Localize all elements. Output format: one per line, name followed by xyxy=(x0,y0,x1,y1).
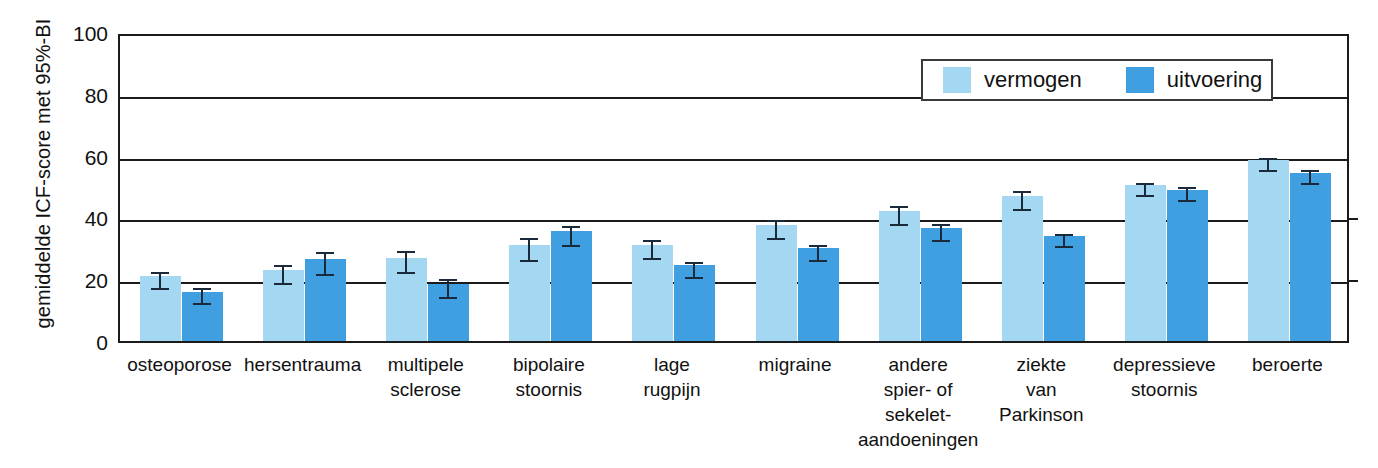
x-category-label: multipelesclerose xyxy=(364,352,487,402)
bar-vermogen-depressieve-stoornis xyxy=(1125,185,1166,341)
x-category-label: osteoporose xyxy=(118,352,241,377)
error-bar-cap xyxy=(1055,234,1073,236)
error-bar xyxy=(940,224,942,239)
error-bar-cap xyxy=(1178,187,1196,189)
error-bar xyxy=(817,245,819,260)
error-bar-cap xyxy=(274,265,292,267)
bar-vermogen-andere-spier--of-sekelet-aandoeningen xyxy=(879,211,920,341)
x-category-label: hersentrauma xyxy=(241,352,364,377)
error-bar-cap xyxy=(562,226,580,228)
error-bar xyxy=(324,252,326,274)
y-tick-label-20: 20 xyxy=(60,270,108,291)
error-bar xyxy=(528,238,530,260)
error-bar xyxy=(282,265,284,284)
x-category-label-line: rugpijn xyxy=(610,377,733,402)
error-bar xyxy=(1021,191,1023,210)
x-category-label: migraine xyxy=(734,352,857,377)
error-bar xyxy=(570,226,572,245)
bar-uitvoering-andere-spier--of-sekelet-aandoeningen xyxy=(921,228,962,341)
error-bar-cap xyxy=(1301,183,1319,185)
error-bar-cap xyxy=(1136,195,1154,197)
error-bar-cap xyxy=(520,260,538,262)
error-bar-cap xyxy=(932,224,950,226)
error-bar-cap xyxy=(643,258,661,260)
error-bar-cap xyxy=(809,260,827,262)
chart-legend: vermogenuitvoering xyxy=(921,59,1273,101)
x-category-label-line: stoornis xyxy=(1103,377,1226,402)
x-category-label-line: sekelet- xyxy=(857,402,980,427)
error-bar-cap xyxy=(1055,246,1073,248)
x-category-label-line: osteoporose xyxy=(118,352,241,377)
x-category-label-line: multipele xyxy=(364,352,487,377)
x-category-label-line: Parkinson xyxy=(980,402,1103,427)
legend-label-vermogen: vermogen xyxy=(984,67,1082,93)
right-tick-mark-20 xyxy=(1349,280,1358,282)
legend-entry-vermogen: vermogen xyxy=(943,67,1082,93)
error-bar-cap xyxy=(1178,200,1196,202)
x-category-label-line: spier- of xyxy=(857,377,980,402)
x-category-label: depressievestoornis xyxy=(1103,352,1226,402)
bar-uitvoering-depressieve-stoornis xyxy=(1167,190,1208,341)
error-bar-cap xyxy=(643,240,661,242)
x-category-label-line: van xyxy=(980,377,1103,402)
error-bar-cap xyxy=(890,224,908,226)
x-category-label-line: ziekte xyxy=(980,352,1103,377)
error-bar-cap xyxy=(685,262,703,264)
x-category-label-line: sclerose xyxy=(364,377,487,402)
error-bar-cap xyxy=(767,220,785,222)
error-bar-cap xyxy=(439,279,457,281)
error-bar xyxy=(651,240,653,259)
y-tick-label-80: 80 xyxy=(60,85,108,106)
x-category-label: lagerugpijn xyxy=(610,352,733,402)
y-axis-tick-labels: 100806040200 xyxy=(48,0,108,468)
bar-group xyxy=(386,36,469,341)
bar-group xyxy=(140,36,223,341)
bar-uitvoering-beroerte xyxy=(1290,173,1331,341)
error-bar-cap xyxy=(1136,183,1154,185)
bar-uitvoering-bipolaire-stoornis xyxy=(551,231,592,341)
x-category-label: ziektevanParkinson xyxy=(980,352,1103,427)
error-bar xyxy=(693,262,695,277)
x-category-label-line: aandoeningen xyxy=(857,427,980,452)
y-tick-label-40: 40 xyxy=(60,208,108,229)
error-bar-cap xyxy=(890,206,908,208)
y-tick-label-60: 60 xyxy=(60,147,108,168)
bar-uitvoering-ziekte-van-Parkinson xyxy=(1044,236,1085,341)
error-bar-cap xyxy=(1013,209,1031,211)
error-bar-cap xyxy=(809,245,827,247)
error-bar-cap xyxy=(316,274,334,276)
bar-group xyxy=(263,36,346,341)
error-bar xyxy=(775,220,777,239)
x-category-label: bipolairestoornis xyxy=(487,352,610,402)
bar-group xyxy=(632,36,715,341)
error-bar-cap xyxy=(685,277,703,279)
error-bar-cap xyxy=(193,288,211,290)
x-category-label-line: depressieve xyxy=(1103,352,1226,377)
bar-group xyxy=(509,36,592,341)
y-tick-label-0: 0 xyxy=(60,332,108,353)
error-bar-cap xyxy=(439,297,457,299)
x-category-label-line: hersentrauma xyxy=(241,352,364,377)
error-bar-cap xyxy=(151,272,169,274)
legend-label-uitvoering: uitvoering xyxy=(1167,67,1262,93)
x-category-label-line: stoornis xyxy=(487,377,610,402)
error-bar-cap xyxy=(1259,158,1277,160)
error-bar xyxy=(159,272,161,287)
x-category-label-line: bipolaire xyxy=(487,352,610,377)
x-category-label-line: lage xyxy=(610,352,733,377)
error-bar xyxy=(405,251,407,273)
error-bar xyxy=(201,288,203,303)
error-bar-cap xyxy=(316,252,334,254)
right-tick-mark-40 xyxy=(1349,218,1358,220)
x-category-label-line: andere xyxy=(857,352,980,377)
error-bar-cap xyxy=(151,288,169,290)
x-category-label: beroerte xyxy=(1226,352,1349,377)
error-bar-cap xyxy=(1301,170,1319,172)
legend-swatch-uitvoering xyxy=(1126,67,1154,93)
bar-vermogen-ziekte-van-Parkinson xyxy=(1002,196,1043,341)
x-category-label: anderespier- ofsekelet-aandoeningen xyxy=(857,352,980,452)
y-tick-label-100: 100 xyxy=(60,23,108,44)
error-bar-cap xyxy=(1259,170,1277,172)
x-category-label-line: migraine xyxy=(734,352,857,377)
x-axis-category-labels: osteoporosehersentraumamultipelesclerose… xyxy=(118,352,1349,462)
